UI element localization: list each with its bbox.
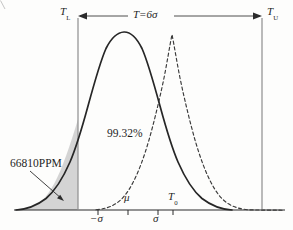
tolerance-span-label: T=6σ [133, 9, 157, 20]
edge-smudge-mark [0, 0, 6, 10]
upper-spec-limit-label-subscript: U [273, 14, 278, 21]
tolerance-span-arrow [78, 9, 262, 23]
shifted-mean-label: T0 [168, 191, 178, 205]
distribution-plot-svg [0, 0, 293, 230]
lower-spec-limit-label-subscript: L [66, 14, 70, 21]
process-capability-figure: TL TU T=6σ 99.32% 66810PPM μ T0 −σ σ [0, 0, 293, 230]
tick-label-positive-sigma: σ [153, 213, 158, 224]
shifted-distribution-curve [16, 32, 232, 210]
shifted-mean-label-subscript: 0 [174, 199, 177, 206]
tolerance-span-sigma-glyph: σ [152, 8, 157, 20]
lower-spec-limit-label: TL [60, 6, 70, 20]
axis-tick-marks [98, 210, 173, 215]
upper-spec-limit-label: TU [267, 6, 278, 20]
tick-label-negative-sigma: −σ [90, 213, 103, 224]
defect-ppm-label: 66810PPM [10, 158, 62, 170]
yield-percent-label: 99.32% [107, 128, 142, 140]
mean-label: μ [124, 192, 130, 203]
tolerance-span-label-text: T=6 [133, 8, 152, 20]
